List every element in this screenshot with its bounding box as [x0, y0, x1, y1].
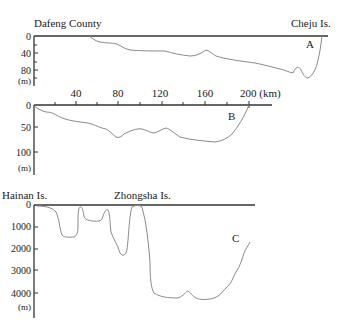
profile-label-b: B [228, 110, 235, 122]
tick-label: 0 [26, 199, 31, 210]
scale-label: 200 (km) [240, 87, 281, 100]
unit-label: (m) [18, 302, 31, 312]
tick-label: 50 [21, 122, 31, 133]
tick-label: 100 [16, 147, 31, 158]
seabed-profile-c [36, 206, 250, 300]
tick-label: 1000 [11, 221, 31, 232]
profile-b: 0 50 100 (m) B [16, 100, 272, 175]
place-label-hainan-is: Hainan Is. [2, 189, 47, 201]
bathymetric-profiles-diagram: Dafeng County Cheju Is. 0 40 80 (m) A 40… [0, 0, 341, 331]
tick-label: 4000 [11, 288, 31, 299]
unit-label: (m) [18, 76, 31, 86]
tick-label: 0 [26, 100, 31, 111]
distance-scale: 40 80 120 160 200 (km) [71, 87, 281, 100]
profile-label-a: A [306, 38, 314, 50]
tick-label: 40 [21, 48, 31, 59]
tick-label: 0 [26, 31, 31, 42]
scale-label: 160 [197, 87, 214, 99]
place-label-dafeng-county: Dafeng County [34, 17, 102, 29]
profile-c: Hainan Is. Zhongsha Is. 0 1000 2000 3000… [2, 189, 255, 318]
scale-label: 80 [113, 87, 125, 99]
scale-label: 120 [152, 87, 169, 99]
tick-label: 80 [21, 65, 31, 76]
profile-label-c: C [232, 232, 239, 244]
scale-label: 40 [71, 87, 83, 99]
tick-label: 2000 [11, 243, 31, 254]
tick-label: 3000 [11, 265, 31, 276]
unit-label: (m) [18, 163, 31, 173]
place-label-zhongsha-is: Zhongsha Is. [114, 189, 171, 201]
seabed-profile-a [89, 36, 322, 78]
place-label-cheju-is: Cheju Is. [291, 17, 331, 29]
profile-a: Dafeng County Cheju Is. 0 40 80 (m) A [18, 17, 331, 86]
seabed-profile-b [34, 105, 249, 142]
